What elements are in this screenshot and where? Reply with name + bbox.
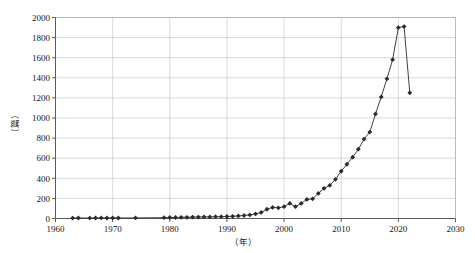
y-tick-label: 0 xyxy=(46,214,51,224)
y-tick-label: 1000 xyxy=(32,113,51,123)
x-tick-label: 2010 xyxy=(332,224,351,234)
y-tick-label: 1800 xyxy=(32,33,51,43)
y-tick-label: 1200 xyxy=(32,93,51,103)
y-axis-title: （篇） xyxy=(10,110,20,137)
y-tick-label: 800 xyxy=(37,133,51,143)
chart-container: 0200400600800100012001400160018002000 19… xyxy=(0,0,475,253)
y-tick-label: 600 xyxy=(37,153,51,163)
x-tick-label: 2030 xyxy=(447,224,466,234)
x-tick-label: 2020 xyxy=(389,224,408,234)
x-axis-title: （年） xyxy=(230,237,257,247)
y-tick-label: 1600 xyxy=(32,53,51,63)
y-tick-label: 400 xyxy=(37,174,51,184)
x-tick-label: 1970 xyxy=(104,224,123,234)
x-tick-label: 1990 xyxy=(218,224,237,234)
y-tick-label: 200 xyxy=(37,194,51,204)
x-tick-label: 2000 xyxy=(275,224,294,234)
y-tick-label: 1400 xyxy=(32,73,51,83)
line-chart: 0200400600800100012001400160018002000 19… xyxy=(0,0,475,253)
y-tick-label: 2000 xyxy=(32,13,51,23)
x-tick-label: 1960 xyxy=(47,224,66,234)
x-tick-label: 1980 xyxy=(161,224,180,234)
